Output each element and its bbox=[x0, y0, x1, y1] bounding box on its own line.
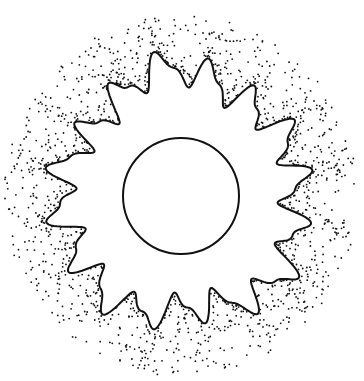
stipple-illustration bbox=[0, 0, 364, 381]
halo-dots bbox=[4, 16, 355, 376]
inner-circle bbox=[123, 138, 239, 254]
lobed-boundary bbox=[46, 52, 313, 329]
